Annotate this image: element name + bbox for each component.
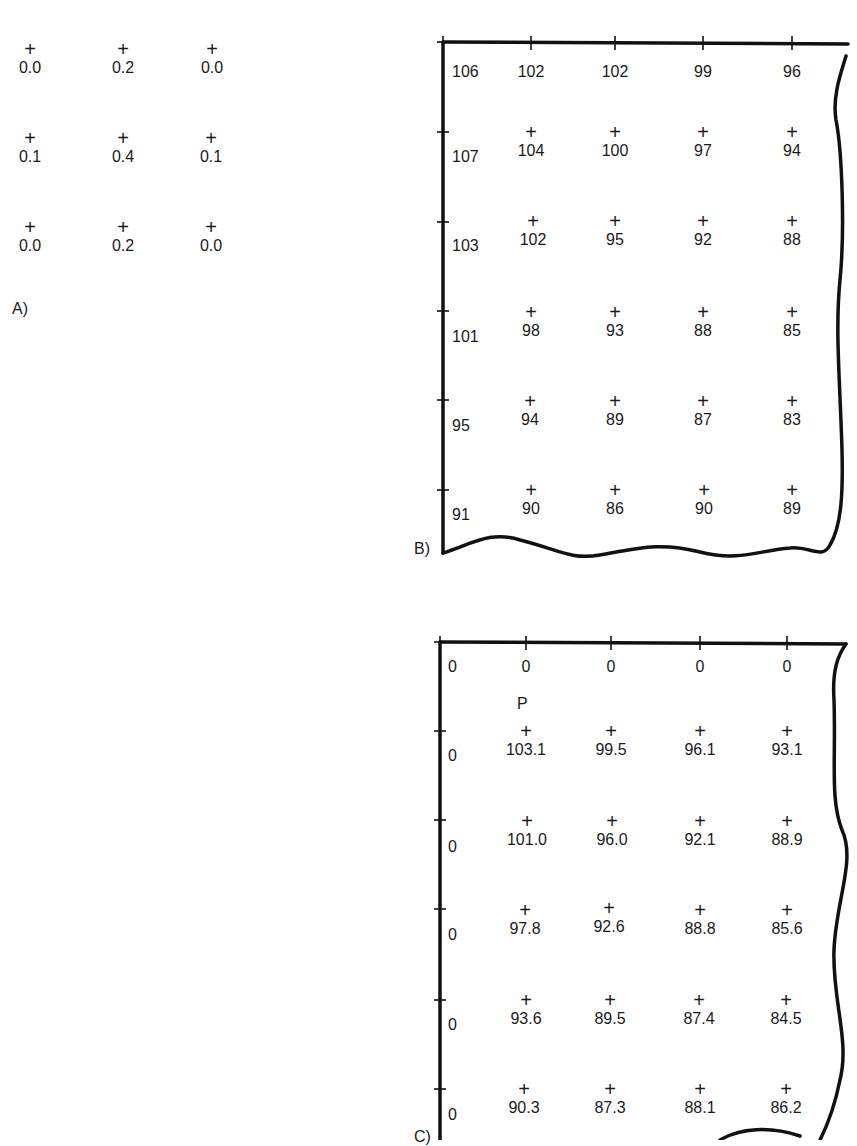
panel-c-cell: +97.8: [495, 901, 555, 939]
panel-a-cell: +0.1: [181, 129, 241, 167]
cell-value: 103.1: [496, 740, 556, 760]
panel-a-cell: +0.0: [182, 40, 242, 78]
cell-value: 0: [581, 657, 641, 677]
cross-marker-icon: +: [757, 722, 817, 740]
cell-value: 85: [762, 321, 822, 341]
cell-value: 90.3: [494, 1098, 554, 1118]
cell-value: 97: [673, 141, 733, 161]
cell-value: 86: [585, 499, 645, 519]
panel-c-cell: +96.0: [582, 812, 642, 850]
panel-c-label: C): [414, 1128, 431, 1146]
cell-value: 101: [452, 327, 479, 347]
cell-value: 0: [448, 925, 457, 945]
cell-value: 87.4: [669, 1009, 729, 1029]
panel-b-cell: +88: [673, 303, 733, 341]
panel-c-cell: +89.5: [580, 991, 640, 1029]
panel-b-cell: +86: [585, 481, 645, 519]
cell-value: 84.5: [756, 1009, 816, 1029]
cross-marker-icon: +: [670, 1080, 730, 1098]
cell-value: 103: [452, 236, 479, 256]
cell-value: 91: [452, 505, 470, 525]
panel-a-label: A): [12, 300, 28, 318]
cell-value: 92: [673, 230, 733, 250]
cell-value: 88: [762, 230, 822, 250]
cross-marker-icon: +: [673, 392, 733, 410]
panel-a-cell: +0.4: [93, 129, 153, 167]
cell-value: 90: [501, 499, 561, 519]
cross-marker-icon: +: [0, 218, 60, 236]
cell-value: 0: [448, 657, 457, 677]
cell-value: 99: [673, 62, 733, 82]
panel-b-cell: +89: [585, 392, 645, 430]
panel-b-cell: +88: [762, 212, 822, 250]
cross-marker-icon: +: [581, 722, 641, 740]
cross-marker-icon: +: [673, 123, 733, 141]
cross-marker-icon: +: [757, 812, 817, 830]
panel-b-cell: +98: [501, 303, 561, 341]
cross-marker-icon: +: [496, 991, 556, 1009]
cross-marker-icon: +: [670, 812, 730, 830]
cross-marker-icon: +: [670, 722, 730, 740]
panel-b-cell: +83: [762, 392, 822, 430]
cross-marker-icon: +: [501, 303, 561, 321]
cross-marker-icon: +: [674, 481, 734, 499]
cross-marker-icon: +: [580, 1080, 640, 1098]
panel-c-cell: +90.3: [494, 1080, 554, 1118]
panel-a-cell: +0.2: [93, 40, 153, 78]
cross-marker-icon: +: [503, 212, 563, 230]
panel-c-cell: 0: [670, 657, 730, 677]
cell-value: 99.5: [581, 740, 641, 760]
cross-marker-icon: +: [762, 123, 822, 141]
cell-value: 96.1: [670, 740, 730, 760]
cell-value: 83: [762, 410, 822, 430]
cross-marker-icon: +: [495, 901, 555, 919]
cell-value: 0: [757, 657, 817, 677]
cross-marker-icon: +: [496, 722, 556, 740]
panel-c-cell: 0: [496, 657, 556, 677]
cell-value: 89: [585, 410, 645, 430]
cell-value: 0: [670, 657, 730, 677]
panel-c-cell: +86.2: [756, 1080, 816, 1118]
cell-value: 102: [501, 62, 561, 82]
cell-value: 100: [585, 141, 645, 161]
panel-c-cell: +92.6: [579, 899, 639, 937]
cross-marker-icon: +: [181, 218, 241, 236]
cell-value: 87: [673, 410, 733, 430]
cross-marker-icon: +: [756, 991, 816, 1009]
cell-value: 0.1: [181, 147, 241, 167]
panel-b-cell: 102: [585, 62, 645, 82]
cell-value: 93.6: [496, 1009, 556, 1029]
panel-a-cell: +0.0: [0, 40, 60, 78]
cell-value: 0.0: [0, 58, 60, 78]
cell-value: 93: [585, 321, 645, 341]
cross-marker-icon: +: [585, 212, 645, 230]
cell-value: 0.1: [0, 147, 60, 167]
cell-value: 0: [448, 746, 457, 766]
cell-value: 107: [452, 147, 479, 167]
panel-c-cell: +85.6: [757, 901, 817, 939]
panel-a-cell: +0.0: [0, 218, 60, 256]
cell-value: 0.2: [93, 236, 153, 256]
cell-value: 96: [762, 62, 822, 82]
cross-marker-icon: +: [582, 812, 642, 830]
panel-b-cell: +94: [762, 123, 822, 161]
cross-marker-icon: +: [494, 1080, 554, 1098]
point-p-label: P: [517, 694, 528, 714]
cell-value: 92.1: [670, 830, 730, 850]
cross-marker-icon: +: [0, 40, 60, 58]
cross-marker-icon: +: [580, 991, 640, 1009]
cross-marker-icon: +: [497, 812, 557, 830]
cell-value: 87.3: [580, 1098, 640, 1118]
cross-marker-icon: +: [93, 218, 153, 236]
cell-value: 95: [452, 416, 470, 436]
cross-marker-icon: +: [585, 303, 645, 321]
cross-marker-icon: +: [762, 212, 822, 230]
cross-marker-icon: +: [579, 899, 639, 917]
cross-marker-icon: +: [762, 392, 822, 410]
cross-marker-icon: +: [762, 481, 822, 499]
panel-b-cell: +100: [585, 123, 645, 161]
cell-value: 0: [448, 837, 457, 857]
panel-b-cell: +90: [501, 481, 561, 519]
panel-c-cell: +84.5: [756, 991, 816, 1029]
panel-b-cell: +104: [501, 123, 561, 161]
